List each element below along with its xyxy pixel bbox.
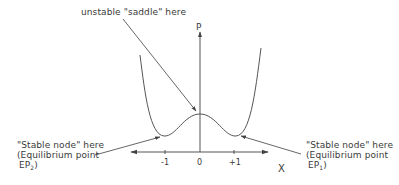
saddle-arrow (123, 19, 196, 111)
right-node-arrow (241, 136, 301, 154)
left-node-line3: EP2) (17, 160, 104, 173)
tick-label-minus-1: -1 (161, 158, 169, 168)
y-axis-label: P (196, 22, 202, 32)
right-node-line3: EP1) (306, 160, 393, 173)
right-node-annotation: "Stable node" here (Equilibrium point EP… (306, 140, 393, 173)
right-node-line1: "Stable node" here (306, 140, 393, 150)
tick-label-plus-1: +1 (229, 158, 241, 168)
left-node-annotation: "Stable node" here (Equilibrium point EP… (17, 140, 104, 173)
tick-label-0: 0 (197, 158, 202, 168)
right-node-line2: (Equilibrium point (306, 150, 393, 160)
left-node-ep: EP (19, 160, 30, 170)
left-node-close: ) (34, 160, 38, 170)
right-node-close: ) (323, 160, 327, 170)
right-node-ep: EP (308, 160, 319, 170)
left-node-line1: "Stable node" here (17, 140, 104, 150)
x-axis-label: X (278, 164, 285, 174)
saddle-label: unstable "saddle" here (81, 7, 186, 17)
left-node-line2: (Equilibrium point (17, 150, 104, 160)
